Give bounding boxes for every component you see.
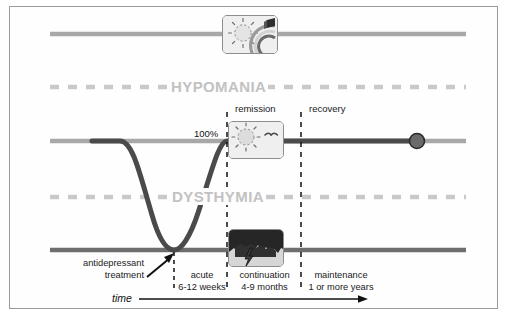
sun-bird-icon-card <box>228 121 284 159</box>
phase-maintenance-label: maintenance <box>303 270 379 282</box>
phase-continuation-duration: 4-9 months <box>229 282 300 294</box>
phase-continuation-label: continuation <box>229 270 300 282</box>
phase-maintenance: maintenance 1 or more years <box>303 270 379 293</box>
phase-acute: acute 6-12 weeks <box>176 270 228 293</box>
time-axis-arrow <box>139 295 368 303</box>
storm-cloud-lightning-icon-card <box>228 229 284 267</box>
sun-rainbow-icon <box>223 16 278 54</box>
storm-cloud-lightning-icon <box>229 230 284 267</box>
antidepressant-treatment-annotation: antidepressant treatment <box>28 258 144 281</box>
hypomania-band-label: HYPOMANIA <box>169 78 268 95</box>
sun-rainbow-icon-card <box>222 15 278 54</box>
figure-root: HYPOMANIA DYSTHYMIA 100% remission recov… <box>0 0 514 320</box>
phase-continuation: continuation 4-9 months <box>229 270 300 293</box>
recovery-label: recovery <box>309 103 345 114</box>
dysthymia-band-label: DYSTHYMIA <box>170 188 266 205</box>
antidepressant-treatment-line1: antidepressant <box>28 258 144 270</box>
time-axis-label: time <box>112 292 132 304</box>
recovery-endpoint-circle <box>410 134 425 149</box>
phase-acute-duration: 6-12 weeks <box>176 282 228 294</box>
percent-label: 100% <box>194 128 218 139</box>
antidepressant-arrow <box>147 253 174 277</box>
phase-maintenance-duration: 1 or more years <box>303 282 379 294</box>
sun-bird-icon <box>229 122 284 159</box>
antidepressant-treatment-line2: treatment <box>28 270 144 282</box>
remission-label: remission <box>235 103 276 114</box>
phase-acute-label: acute <box>176 270 228 282</box>
